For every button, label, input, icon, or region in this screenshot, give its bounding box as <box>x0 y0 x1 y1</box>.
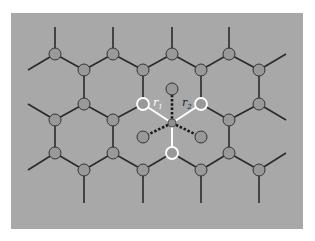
carbon-atom <box>107 48 119 60</box>
carbon-atom <box>49 48 61 60</box>
graphene-lattice-diagram <box>0 0 315 241</box>
carbon-atom <box>78 164 90 176</box>
carbon-atom <box>78 64 90 76</box>
adsorbate-atom <box>166 83 178 95</box>
label-r2: r2 <box>182 96 192 111</box>
adsorbate-atom <box>137 131 149 143</box>
carbon-atom <box>223 147 235 159</box>
label-r2-sub: 2 <box>187 103 191 111</box>
carbon-atom <box>49 114 61 126</box>
carbon-atom <box>107 147 119 159</box>
carbon-atom <box>253 64 265 76</box>
carbon-atom <box>107 114 119 126</box>
highlighted-atom <box>166 147 178 159</box>
carbon-atom <box>223 114 235 126</box>
carbon-atom <box>195 164 207 176</box>
carbon-atom <box>195 64 207 76</box>
label-r1: r1 <box>153 96 163 111</box>
carbon-atom <box>137 164 149 176</box>
carbon-atom <box>166 48 178 60</box>
highlighted-atom <box>137 98 149 110</box>
highlighted-atom <box>195 98 207 110</box>
adsorbate-atom <box>195 131 207 143</box>
label-r1-sub: 1 <box>158 103 162 111</box>
carbon-atom <box>223 48 235 60</box>
carbon-atom <box>49 147 61 159</box>
carbon-atom <box>253 98 265 110</box>
carbon-atom <box>253 164 265 176</box>
carbon-atom <box>137 64 149 76</box>
center-atom <box>168 119 176 127</box>
carbon-atom <box>78 98 90 110</box>
